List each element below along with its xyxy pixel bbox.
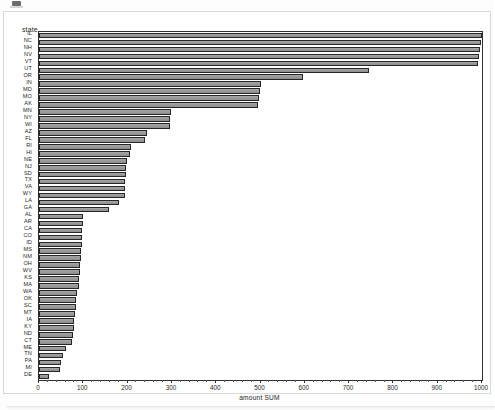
bar-row	[39, 109, 482, 115]
y-tick-label-wv: WV	[23, 268, 32, 274]
bar-ak[interactable]	[39, 102, 258, 108]
x-tick-minor	[109, 380, 110, 382]
x-tick-minor	[286, 380, 287, 382]
y-tick-label-ca: CA	[24, 226, 32, 232]
bar-ky[interactable]	[39, 325, 74, 331]
bar-nm[interactable]	[39, 255, 81, 261]
bar-ri[interactable]	[39, 144, 131, 150]
y-tick-label-sd: SD	[24, 171, 32, 177]
bar-nc[interactable]	[39, 40, 481, 46]
y-tick-label-ar: AR	[24, 219, 32, 225]
x-tick-minor	[224, 380, 225, 382]
chart-card: state ILNCNHNVVTUTORINMDMOAKMNNYWIAZFLRI…	[3, 11, 491, 394]
x-tick-major	[38, 380, 39, 383]
x-tick-major	[437, 380, 438, 383]
y-tick-label-ky: KY	[24, 324, 32, 330]
bar-nd[interactable]	[39, 332, 73, 338]
bar-sc[interactable]	[39, 304, 76, 310]
bar-wy[interactable]	[39, 193, 125, 199]
bar-ct[interactable]	[39, 339, 72, 345]
x-tick-minor	[277, 380, 278, 382]
bar-al[interactable]	[39, 214, 83, 220]
bar-nj[interactable]	[39, 165, 126, 171]
y-tick-label-wy: WY	[23, 191, 32, 197]
bar-series	[39, 32, 482, 380]
x-tick-major	[82, 380, 83, 383]
bar-row	[39, 269, 482, 275]
bar-co[interactable]	[39, 235, 82, 241]
bar-or[interactable]	[39, 74, 303, 80]
bar-mi[interactable]	[39, 367, 60, 373]
x-tick-minor	[135, 380, 136, 382]
plot-area	[38, 31, 483, 381]
bar-wi[interactable]	[39, 123, 170, 129]
y-tick-label-ga: GA	[24, 205, 32, 211]
bar-row	[39, 88, 482, 94]
bar-tn[interactable]	[39, 353, 63, 359]
bar-vt[interactable]	[39, 61, 478, 67]
bar-hi[interactable]	[39, 151, 130, 157]
bar-de[interactable]	[39, 374, 49, 380]
bar-il[interactable]	[39, 33, 482, 39]
x-tick-label-0: 0	[36, 384, 40, 391]
bar-ga[interactable]	[39, 207, 109, 213]
x-tick-minor	[233, 380, 234, 382]
x-tick-minor	[100, 380, 101, 382]
bar-row	[39, 144, 482, 150]
bar-nh[interactable]	[39, 47, 480, 53]
y-tick-label-mn: MN	[23, 108, 32, 114]
bar-row	[39, 242, 482, 248]
x-tick-minor	[330, 380, 331, 382]
bar-in[interactable]	[39, 81, 261, 87]
bar-id[interactable]	[39, 242, 82, 248]
bar-md[interactable]	[39, 88, 260, 94]
bar-ks[interactable]	[39, 276, 79, 282]
bar-sd[interactable]	[39, 172, 126, 178]
bar-ok[interactable]	[39, 297, 76, 303]
y-tick-label-ri: RI	[26, 143, 32, 149]
bar-row	[39, 374, 482, 380]
bar-mo[interactable]	[39, 95, 259, 101]
x-tick-label-900: 900	[431, 384, 442, 391]
y-tick-label-mi: MI	[26, 365, 32, 371]
bar-ut[interactable]	[39, 68, 369, 74]
bar-pa[interactable]	[39, 360, 61, 366]
bar-oh[interactable]	[39, 262, 80, 268]
bar-wa[interactable]	[39, 290, 77, 296]
x-tick-label-100: 100	[77, 384, 88, 391]
y-tick-label-tx: TX	[25, 177, 32, 183]
x-tick-label-800: 800	[387, 384, 398, 391]
bar-row	[39, 311, 482, 317]
x-tick-minor	[463, 380, 464, 382]
y-tick-label-co: CO	[23, 233, 32, 239]
bar-ms[interactable]	[39, 248, 81, 254]
x-tick-label-700: 700	[343, 384, 354, 391]
bar-row	[39, 130, 482, 136]
bar-wv[interactable]	[39, 269, 80, 275]
bar-ca[interactable]	[39, 228, 82, 234]
bar-row	[39, 262, 482, 268]
bar-row	[39, 339, 482, 345]
bar-me[interactable]	[39, 346, 66, 352]
y-tick-label-md: MD	[23, 87, 32, 93]
bar-ny[interactable]	[39, 116, 170, 122]
bar-mn[interactable]	[39, 109, 171, 115]
bar-tx[interactable]	[39, 179, 125, 185]
y-tick-label-wa: WA	[23, 289, 32, 295]
bar-nv[interactable]	[39, 54, 479, 60]
y-tick-label-al: AL	[25, 212, 32, 218]
bar-az[interactable]	[39, 130, 147, 136]
bar-mt[interactable]	[39, 311, 75, 317]
x-tick-minor	[366, 380, 367, 382]
bar-ia[interactable]	[39, 318, 74, 324]
bar-row	[39, 81, 482, 87]
bar-ma[interactable]	[39, 283, 79, 289]
bar-va[interactable]	[39, 186, 125, 192]
x-tick-major	[348, 380, 349, 383]
y-tick-label-oh: OH	[23, 261, 32, 267]
bar-ne[interactable]	[39, 158, 127, 164]
bar-ar[interactable]	[39, 221, 83, 227]
bar-la[interactable]	[39, 200, 119, 206]
bar-fl[interactable]	[39, 137, 145, 143]
